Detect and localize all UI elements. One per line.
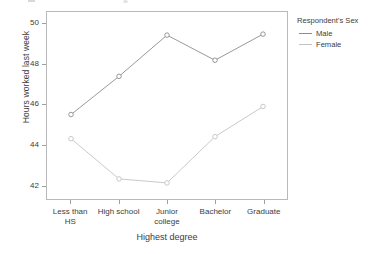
legend-items: MaleFemale — [297, 28, 381, 49]
data-point-marker — [69, 112, 74, 117]
plot-panel — [46, 11, 288, 200]
chart-figure: Hours worked last week 4244464850 Less t… — [0, 0, 382, 254]
data-point-marker — [165, 181, 170, 186]
y-tick-label: 44 — [15, 140, 39, 149]
x-tick-mark — [167, 200, 168, 204]
x-tick-mark — [70, 200, 71, 204]
legend-item-label: Male — [316, 29, 332, 38]
series-male — [69, 32, 266, 117]
series-line — [71, 107, 263, 183]
series-female — [69, 104, 266, 185]
x-tick-mark — [264, 200, 265, 204]
data-point-marker — [213, 134, 218, 139]
y-tick-label: 46 — [15, 99, 39, 108]
x-tick-label: Graduate — [229, 207, 299, 217]
legend-item-label: Female — [316, 40, 341, 49]
cropped-header-artifact-right — [123, 0, 128, 3]
y-tick-label: 42 — [15, 181, 39, 190]
x-tick-mark — [119, 200, 120, 204]
legend-title: Respondent's Sex — [297, 16, 381, 25]
legend-line-swatch — [299, 33, 312, 34]
data-point-marker — [117, 177, 122, 182]
plot-area — [47, 12, 287, 199]
legend-line-swatch — [299, 44, 312, 45]
legend: Respondent's Sex MaleFemale — [297, 16, 381, 50]
data-point-marker — [261, 104, 266, 109]
series-line — [71, 34, 263, 114]
data-point-marker — [117, 74, 122, 79]
legend-item[interactable]: Female — [297, 39, 381, 49]
x-axis-title: Highest degree — [46, 232, 288, 242]
y-tick-label: 48 — [15, 59, 39, 68]
data-point-marker — [261, 32, 266, 37]
legend-item[interactable]: Male — [297, 28, 381, 38]
x-tick-mark — [215, 200, 216, 204]
y-tick-label: 50 — [15, 18, 39, 27]
data-point-marker — [213, 58, 218, 63]
data-point-marker — [165, 33, 170, 38]
data-point-marker — [69, 136, 74, 141]
